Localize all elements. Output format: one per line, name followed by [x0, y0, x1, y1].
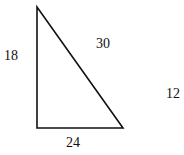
hypotenuse-length-label: 30: [96, 37, 110, 51]
triangle-diagram: 18 30 12 24: [0, 0, 184, 155]
right-triangle-outline: [37, 7, 123, 128]
detached-number-label: 12: [166, 87, 180, 101]
triangle-shape: [0, 0, 184, 155]
left-side-length-label: 18: [4, 49, 18, 63]
bottom-side-length-label: 24: [66, 136, 80, 150]
